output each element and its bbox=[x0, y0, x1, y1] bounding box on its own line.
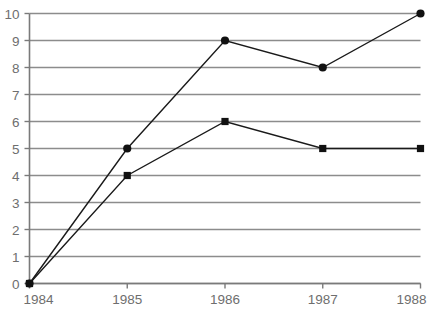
y-tick-label: 1 bbox=[12, 250, 20, 265]
data-point-square bbox=[221, 118, 228, 125]
data-point-square bbox=[319, 145, 326, 152]
x-tick-labels-group: 19841985198619871988 bbox=[23, 292, 426, 307]
x-tick-label: 1987 bbox=[308, 292, 338, 307]
line-chart: 012345678910 19841985198619871988 bbox=[0, 0, 446, 314]
data-point-circle bbox=[319, 63, 327, 71]
x-tick-label: 1985 bbox=[112, 292, 142, 307]
x-tick-label: 1988 bbox=[396, 292, 426, 307]
y-tick-label: 5 bbox=[12, 142, 20, 157]
y-tick-label: 8 bbox=[12, 61, 20, 76]
data-point-square bbox=[417, 145, 424, 152]
y-tick-labels-group: 012345678910 bbox=[4, 7, 20, 292]
data-point-square bbox=[26, 280, 33, 287]
y-tick-label: 3 bbox=[12, 196, 20, 211]
data-point-circle bbox=[123, 144, 131, 152]
data-point-square bbox=[124, 172, 131, 179]
x-axis-group bbox=[30, 284, 421, 289]
y-tick-label: 10 bbox=[4, 7, 19, 22]
x-tick-label: 1984 bbox=[23, 292, 54, 307]
x-tick-label: 1986 bbox=[210, 292, 240, 307]
chart-canvas: 012345678910 19841985198619871988 bbox=[0, 0, 446, 314]
data-point-circle bbox=[416, 9, 424, 17]
y-tick-label: 9 bbox=[12, 34, 20, 49]
y-tick-label: 4 bbox=[12, 169, 20, 184]
y-tick-label: 6 bbox=[12, 115, 20, 130]
y-tick-label: 2 bbox=[12, 223, 20, 238]
data-point-circle bbox=[221, 36, 229, 44]
y-tick-label: 7 bbox=[12, 88, 20, 103]
y-tick-label: 0 bbox=[12, 277, 20, 292]
y-axis-group bbox=[25, 14, 30, 284]
